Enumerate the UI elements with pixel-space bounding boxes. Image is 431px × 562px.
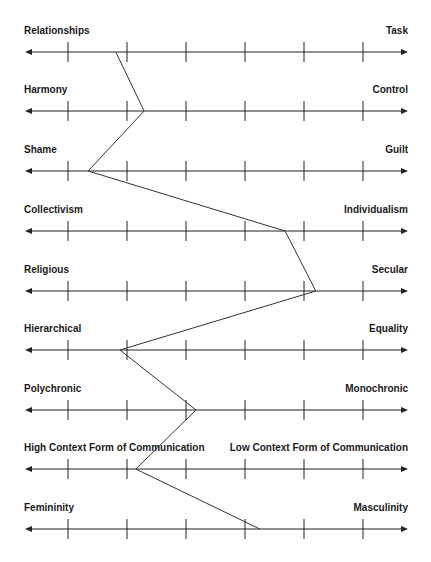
- axis-row: [25, 101, 408, 121]
- axis-row: [25, 42, 408, 62]
- arrow-left-icon: [25, 407, 32, 413]
- arrow-left-icon: [25, 347, 32, 353]
- arrow-right-icon: [401, 108, 408, 114]
- axis-row: [25, 340, 408, 360]
- axis-row: [25, 400, 408, 420]
- cultural-profile-chart: [0, 0, 431, 562]
- arrow-right-icon: [401, 407, 408, 413]
- arrow-right-icon: [401, 347, 408, 353]
- arrow-left-icon: [25, 288, 32, 294]
- axis-row: [25, 161, 408, 181]
- arrow-left-icon: [25, 466, 32, 472]
- arrow-right-icon: [401, 168, 408, 174]
- arrow-left-icon: [25, 108, 32, 114]
- arrow-right-icon: [401, 466, 408, 472]
- arrow-right-icon: [401, 526, 408, 532]
- axis-row: [25, 519, 408, 539]
- arrow-right-icon: [401, 288, 408, 294]
- arrow-right-icon: [401, 228, 408, 234]
- arrow-left-icon: [25, 228, 32, 234]
- axis-row: [25, 459, 408, 479]
- axis-row: [25, 221, 408, 241]
- arrow-right-icon: [401, 49, 408, 55]
- arrow-left-icon: [25, 168, 32, 174]
- axis-row: [25, 281, 408, 301]
- arrow-left-icon: [25, 49, 32, 55]
- arrow-left-icon: [25, 526, 32, 532]
